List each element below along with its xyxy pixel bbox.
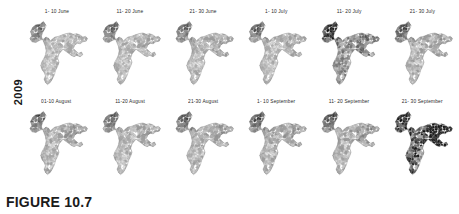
map-panel-figure: [242, 106, 310, 178]
map-panel-figure: [23, 16, 91, 88]
map-panel[interactable]: 1- 10 July: [239, 6, 312, 96]
map-panel-label: 21- 30 July: [410, 10, 435, 15]
figure-caption: FIGURE 10.7: [6, 194, 92, 210]
map-panel[interactable]: 21- 30 September: [386, 96, 459, 186]
india-choropleth-map: [169, 16, 237, 88]
map-panel[interactable]: 11- 20 September: [313, 96, 386, 186]
map-panel-figure: [23, 106, 91, 178]
map-panel-figure: [169, 16, 237, 88]
map-panel[interactable]: 21-30 August: [166, 96, 239, 186]
map-panel[interactable]: 11- 20 June: [93, 6, 166, 96]
map-panel-label: 1- 10 September: [257, 100, 295, 105]
map-panel[interactable]: 11- 20 July: [313, 6, 386, 96]
india-choropleth-map: [23, 16, 91, 88]
map-panel-label: 21-30 August: [188, 100, 218, 105]
map-panel-label: 11- 20 June: [116, 10, 143, 15]
india-choropleth-map: [96, 106, 164, 178]
map-panel-label: 01-10 August: [41, 100, 71, 105]
map-panel-figure: [315, 106, 383, 178]
map-panel-figure: [388, 106, 456, 178]
india-choropleth-map: [23, 106, 91, 178]
map-panel-figure: [315, 16, 383, 88]
map-panel-label: 21- 30 September: [402, 100, 443, 105]
india-choropleth-map: [242, 106, 310, 178]
map-panel-label: 11-20 August: [115, 100, 145, 105]
map-panel-figure: [242, 16, 310, 88]
india-choropleth-map: [315, 16, 383, 88]
map-panel[interactable]: 21- 30 July: [386, 6, 459, 96]
map-panel-figure: [169, 106, 237, 178]
map-panel[interactable]: 1- 10 June: [20, 6, 93, 96]
india-choropleth-map: [388, 16, 456, 88]
map-panel-figure: [388, 16, 456, 88]
india-choropleth-map: [169, 106, 237, 178]
map-panel-label: 11- 20 July: [337, 10, 362, 15]
map-panel[interactable]: 11-20 August: [93, 96, 166, 186]
india-choropleth-map: [242, 16, 310, 88]
figure-container: 2009 1- 10 June11- 20 June21- 30 June1- …: [0, 0, 459, 214]
india-choropleth-map: [315, 106, 383, 178]
small-multiples-grid: 1- 10 June11- 20 June21- 30 June1- 10 Ju…: [20, 6, 459, 186]
india-choropleth-map: [96, 16, 164, 88]
map-panel-label: 11- 20 September: [329, 100, 370, 105]
map-panel-label: 1- 10 June: [44, 10, 68, 15]
map-panel[interactable]: 1- 10 September: [239, 96, 312, 186]
map-panel-figure: [96, 16, 164, 88]
map-panel-label: 1- 10 July: [265, 10, 287, 15]
map-panel-label: 21- 30 June: [189, 10, 216, 15]
map-panel[interactable]: 21- 30 June: [166, 6, 239, 96]
map-panel[interactable]: 01-10 August: [20, 96, 93, 186]
map-panel-figure: [96, 106, 164, 178]
india-choropleth-map: [388, 106, 456, 178]
